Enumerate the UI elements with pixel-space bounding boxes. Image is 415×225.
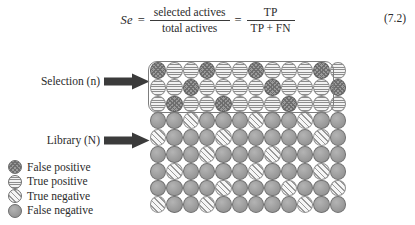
compound-sphere-fn: [150, 163, 166, 180]
grid-cell: [183, 196, 199, 213]
compound-sphere-fp: [199, 62, 215, 79]
grid-cell: [183, 129, 199, 146]
legend-item: True negative: [8, 189, 93, 204]
compound-sphere-fn: [281, 129, 297, 146]
compound-sphere-fn: [297, 163, 313, 180]
compound-sphere-fn: [281, 196, 297, 213]
compound-sphere-fn: [150, 112, 166, 129]
legend-item-label: True negative: [27, 191, 90, 203]
compound-sphere-fn: [281, 112, 297, 129]
compound-sphere-fn: [199, 129, 215, 146]
compound-sphere-fp: [264, 79, 280, 96]
grid-cell: [313, 163, 329, 180]
grid-cell: [313, 62, 329, 79]
compound-sphere-fp: [248, 62, 264, 79]
grid-cell: [313, 146, 329, 163]
grid-cell: [215, 96, 231, 113]
grid-cell: [215, 79, 231, 96]
compound-sphere-tp: [183, 96, 199, 113]
compound-sphere-tn: [150, 129, 166, 146]
compound-sphere-fn: [330, 129, 346, 146]
compound-sphere-fn: [330, 163, 346, 180]
grid-cell: [232, 129, 248, 146]
compound-sphere-fn: [330, 146, 346, 163]
grid-cell: [232, 196, 248, 213]
grid-cell: [313, 79, 329, 96]
compound-sphere-tp: [232, 96, 248, 113]
compound-sphere-fn: [264, 129, 280, 146]
grid-cell: [183, 163, 199, 180]
crosshatch-circle-icon: [8, 160, 22, 174]
compound-sphere-fn: [232, 112, 248, 129]
library-arrow-icon: [104, 132, 150, 149]
grid-cell: [166, 79, 182, 96]
compound-sphere-fn: [166, 180, 182, 197]
compound-sphere-fn: [199, 163, 215, 180]
compound-sphere-tn: [248, 163, 264, 180]
legend-item: False negative: [8, 204, 93, 219]
grid-cell: [232, 62, 248, 79]
library-label: Library (N): [18, 134, 100, 146]
compound-sphere-tp: [264, 62, 280, 79]
grid-cell: [215, 163, 231, 180]
compound-sphere-fn: [248, 146, 264, 163]
compound-sphere-fp: [150, 62, 166, 79]
grid-cell: [297, 62, 313, 79]
compound-sphere-tp: [150, 96, 166, 113]
grid-cell: [199, 129, 215, 146]
grid-cell: [297, 146, 313, 163]
compound-sphere-tn: [248, 112, 264, 129]
grid-cell: [264, 146, 280, 163]
grid-cell: [166, 62, 182, 79]
grid-cell: [281, 196, 297, 213]
grid-cell: [281, 163, 297, 180]
grid-cell: [150, 146, 166, 163]
grid-cell: [232, 112, 248, 129]
compound-sphere-tp: [313, 79, 329, 96]
horizontal-stripe-circle-icon: [8, 175, 22, 189]
compound-sphere-tp: [313, 96, 329, 113]
grid-cell: [297, 112, 313, 129]
grid-cell: [248, 112, 264, 129]
compound-grid-cells: [150, 62, 346, 213]
grid-cell: [248, 129, 264, 146]
compound-sphere-fn: [183, 163, 199, 180]
grid-cell: [215, 196, 231, 213]
legend-item-label: True positive: [27, 176, 88, 188]
equation-fraction-1: selected actives total actives: [150, 6, 230, 35]
grid-cell: [215, 112, 231, 129]
grid-cell: [183, 62, 199, 79]
grid-cell: [264, 163, 280, 180]
compound-sphere-fn: [166, 146, 182, 163]
selection-arrow-icon: [104, 73, 150, 90]
grid-cell: [150, 163, 166, 180]
grid-cell: [183, 112, 199, 129]
compound-sphere-tn: [183, 112, 199, 129]
compound-sphere-tp: [264, 96, 280, 113]
compound-sphere-tn: [215, 180, 231, 197]
fraction-1-denominator: total actives: [158, 21, 221, 35]
grid-cell: [166, 180, 182, 197]
compound-sphere-tp: [150, 79, 166, 96]
equation: Se = selected actives total actives = TP…: [0, 6, 415, 35]
compound-sphere-fn: [166, 129, 182, 146]
grid-cell: [199, 163, 215, 180]
compound-sphere-fp: [183, 79, 199, 96]
grid-cell: [150, 180, 166, 197]
compound-sphere-tp: [281, 79, 297, 96]
grid-cell: [248, 62, 264, 79]
grid-cell: [297, 129, 313, 146]
compound-sphere-fn: [232, 180, 248, 197]
grid-cell: [232, 79, 248, 96]
compound-sphere-fn: [215, 196, 231, 213]
compound-sphere-fn: [248, 196, 264, 213]
compound-sphere-tp: [166, 62, 182, 79]
grid-cell: [199, 62, 215, 79]
equation-equals-2: =: [234, 13, 243, 28]
compound-sphere-tn: [313, 129, 329, 146]
legend: False positiveTrue positiveTrue negative…: [8, 160, 93, 218]
grid-cell: [313, 112, 329, 129]
compound-sphere-fn: [150, 180, 166, 197]
grid-cell: [264, 62, 280, 79]
compound-sphere-fn: [264, 163, 280, 180]
